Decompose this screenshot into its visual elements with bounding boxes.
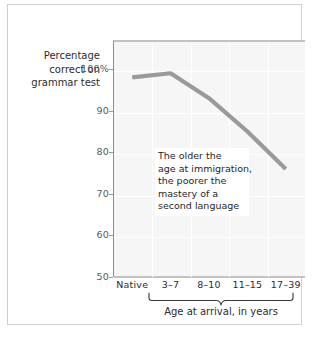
annotation-line-3: the poorer the xyxy=(158,175,246,188)
annotation-callout: The older the age at immigration, the po… xyxy=(155,148,249,216)
y-axis-tick-label: 100% xyxy=(63,64,109,74)
axis-group-brace-icon xyxy=(147,293,295,306)
y-axis-tick-label: 50 xyxy=(63,272,109,282)
y-axis-tick-label: 70 xyxy=(63,189,109,199)
y-axis-tick-label: 80 xyxy=(63,147,109,157)
figure-frame: Percentage correct on grammar test 50607… xyxy=(7,4,302,325)
annotation-line-1: The older the xyxy=(158,150,246,163)
plot-region: The older the age at immigration, the po… xyxy=(113,40,305,277)
x-axis-ticks: Native3–78–1011–1517–39 xyxy=(113,279,305,293)
annotation-line-5: second language xyxy=(158,200,246,213)
annotation-line-2: age at immigration, xyxy=(158,163,246,176)
annotation-line-4: mastery of a xyxy=(158,188,246,201)
y-axis-tick-label: 90 xyxy=(63,106,109,116)
y-axis-tick-label: 60 xyxy=(63,230,109,240)
x-axis-caption: Age at arrival, in years xyxy=(128,306,314,317)
figure-root: Percentage correct on grammar test 50607… xyxy=(0,0,319,337)
x-axis-tick-label: 17–39 xyxy=(262,279,310,290)
y-axis-ticks: 5060708090100% xyxy=(61,40,109,277)
y-axis-tick-mark xyxy=(109,277,113,278)
